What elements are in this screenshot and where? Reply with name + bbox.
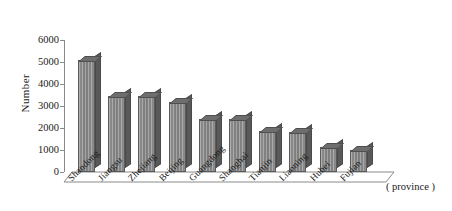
- y-tick-label: 6000: [19, 35, 59, 46]
- bar-side-face: [186, 94, 192, 168]
- y-tick-label: 4000: [19, 79, 59, 90]
- y-tick-label: 2000: [19, 123, 59, 134]
- y-tick-label: 1000: [19, 145, 59, 156]
- y-tick-label: 3000: [19, 101, 59, 112]
- bar-series: [64, 40, 386, 172]
- y-tick-label: 0: [19, 167, 59, 178]
- bar-side-face: [125, 88, 131, 168]
- bar-chart: Number 0100020003000400050006000 Shandon…: [0, 0, 452, 211]
- plot-area: 0100020003000400050006000: [64, 40, 386, 172]
- x-axis-labels: ShandongJiangsuZhejiangBeijingGuangdongS…: [64, 176, 386, 211]
- x-axis-title: ( province ): [386, 181, 435, 192]
- y-tick-label: 5000: [19, 57, 59, 68]
